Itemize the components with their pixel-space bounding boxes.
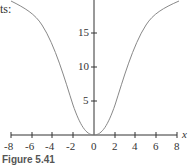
y-tick-5: 5 xyxy=(83,94,89,106)
y-axis xyxy=(91,0,97,135)
x-axis-label: x xyxy=(182,128,187,140)
curve-line xyxy=(11,1,179,135)
x-tick-neg4: -4 xyxy=(45,140,54,152)
x-tick-8: 8 xyxy=(174,140,180,152)
x-tick-neg2: -2 xyxy=(66,140,75,152)
figure-caption: Figure 5.41 xyxy=(2,154,55,165)
x-tick-neg6: -6 xyxy=(25,140,34,152)
x-tick-0: 0 xyxy=(91,140,97,152)
y-tick-10: 10 xyxy=(78,60,89,72)
y-tick-15: 15 xyxy=(78,26,89,38)
x-tick-6: 6 xyxy=(153,140,159,152)
x-tick-neg8: -8 xyxy=(4,140,13,152)
x-tick-4: 4 xyxy=(132,140,138,152)
x-tick-2: 2 xyxy=(112,140,118,152)
